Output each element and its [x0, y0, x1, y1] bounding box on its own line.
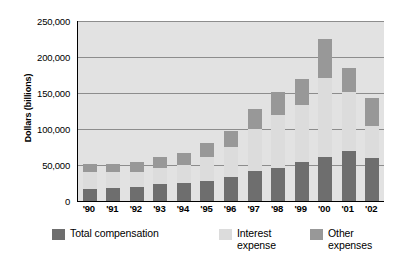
- bar-group: [271, 92, 285, 201]
- legend-item[interactable]: Other expenses: [310, 228, 372, 251]
- bar-segment: [200, 181, 214, 201]
- bar-segment: [106, 188, 120, 201]
- bar-group: [295, 79, 309, 201]
- x-axis-tick-label: '93: [148, 203, 172, 214]
- bar-segment: [200, 143, 214, 157]
- x-axis-tick-label: '94: [171, 203, 195, 214]
- bar-group: [365, 98, 379, 201]
- x-axis-tick-label: '98: [265, 203, 289, 214]
- x-axis-tick-label: '00: [312, 203, 336, 214]
- y-axis-tick-label: 150,000: [37, 88, 70, 99]
- bar-segment: [130, 172, 144, 186]
- legend-swatch: [310, 229, 323, 240]
- y-axis-tick-label: 250,000: [37, 16, 70, 27]
- bar-segment: [342, 151, 356, 201]
- x-axis-tick-label: '92: [124, 203, 148, 214]
- bar-segment: [271, 92, 285, 114]
- bar-segment: [365, 158, 379, 201]
- bar-segment: [224, 131, 238, 147]
- x-axis-tick-label: '91: [101, 203, 125, 214]
- bar-segment: [318, 39, 332, 78]
- legend-label: Other expenses: [328, 228, 372, 251]
- x-axis-tick-label: '02: [359, 203, 383, 214]
- bar-segment: [153, 157, 167, 168]
- bar-group: [200, 143, 214, 201]
- bar-group: [224, 131, 238, 201]
- y-axis-tick-labels: 050,000100,000150,000200,000250,000: [0, 0, 74, 210]
- bar-segment: [248, 171, 262, 201]
- x-axis-tick-labels: '90'91'92'93'94'95'96'97'98'99'00'01'02: [77, 203, 383, 219]
- y-axis-tick-label: 50,000: [42, 160, 70, 171]
- x-axis-tick-label: '96: [218, 203, 242, 214]
- bar-group: [177, 153, 191, 201]
- legend-swatch: [52, 229, 65, 240]
- bar-group: [318, 39, 332, 201]
- bar-segment: [153, 168, 167, 184]
- bar-segment: [365, 98, 379, 126]
- chart-figure: Dollars (billions) 050,000100,000150,000…: [0, 0, 399, 265]
- bar-group: [106, 164, 120, 201]
- bar-segment: [83, 172, 97, 189]
- bar-segment: [365, 126, 379, 158]
- bar-segment: [295, 162, 309, 201]
- y-axis-tick-label: 200,000: [37, 52, 70, 63]
- x-axis-tick-label: '95: [195, 203, 219, 214]
- bar-group: [153, 157, 167, 201]
- bar-segment: [83, 189, 97, 201]
- legend-label: Total compensation: [70, 228, 159, 240]
- legend-swatch: [219, 229, 232, 240]
- legend-label: Interest expense: [237, 228, 276, 251]
- bar-segment: [177, 183, 191, 201]
- bar-segment: [248, 109, 262, 129]
- x-axis-tick-label: '01: [336, 203, 360, 214]
- legend-item[interactable]: Interest expense: [219, 228, 276, 251]
- bar-segment: [83, 164, 97, 173]
- bar-segment: [271, 168, 285, 201]
- bar-segment: [177, 165, 191, 183]
- legend-item[interactable]: Total compensation: [52, 228, 159, 240]
- y-axis-tick-label: 0: [65, 196, 70, 207]
- bar-segment: [153, 184, 167, 201]
- bar-segment: [224, 147, 238, 177]
- chart-legend: Total compensationInterest expenseOther …: [52, 228, 382, 260]
- bar-segment: [318, 78, 332, 157]
- bar-series-container: [78, 21, 384, 201]
- bar-segment: [200, 157, 214, 181]
- bar-segment: [224, 177, 238, 201]
- x-axis-tick-label: '97: [242, 203, 266, 214]
- bar-segment: [318, 157, 332, 201]
- bar-segment: [248, 129, 262, 171]
- bar-group: [83, 164, 97, 201]
- plot-area: [77, 21, 384, 202]
- x-axis-tick-label: '99: [289, 203, 313, 214]
- bar-segment: [130, 162, 144, 172]
- bar-segment: [106, 172, 120, 188]
- bar-segment: [295, 79, 309, 105]
- bar-segment: [342, 68, 356, 92]
- x-axis-tick-label: '90: [77, 203, 101, 214]
- bar-group: [130, 162, 144, 201]
- bar-segment: [106, 164, 120, 173]
- y-axis-tick-label: 100,000: [37, 124, 70, 135]
- bar-group: [248, 109, 262, 201]
- bar-group: [342, 68, 356, 201]
- bar-segment: [295, 105, 309, 163]
- bar-segment: [342, 92, 356, 152]
- bar-segment: [130, 187, 144, 201]
- bar-segment: [177, 153, 191, 165]
- bar-segment: [271, 115, 285, 168]
